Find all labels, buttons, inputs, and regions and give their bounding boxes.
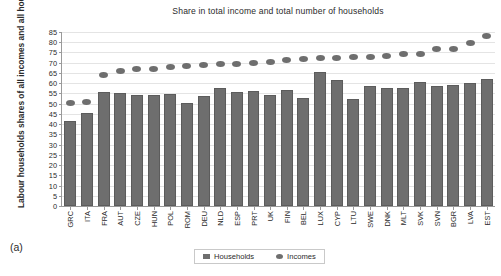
data-point-marker (132, 66, 141, 72)
y-axis-title: Labour households shares of all incomes … (8, 28, 34, 208)
x-tick-label: LUX (316, 211, 325, 225)
plot-area: 8580757065605550454035302520151050 GRCIT… (61, 32, 495, 207)
x-tick-label: NLD (216, 211, 225, 226)
panel-label: (a) (10, 241, 23, 253)
data-point-marker (182, 63, 191, 69)
x-tick-label-wrap: FIN (281, 211, 293, 247)
x-tick-mark (120, 206, 121, 210)
bar (331, 80, 343, 206)
bar (114, 93, 126, 206)
x-tick-label-wrap: AUT (114, 211, 126, 247)
bar (214, 88, 226, 206)
x-tick-label: ITA (82, 211, 91, 222)
data-point-marker (349, 54, 358, 60)
bar (431, 86, 443, 206)
category-slot: BEL (295, 32, 312, 206)
bar (347, 99, 359, 206)
x-tick-label-wrap: HUN (148, 211, 160, 247)
bar (81, 113, 93, 206)
x-tick-mark (254, 206, 255, 210)
data-point-marker (216, 61, 225, 67)
bar (181, 103, 193, 206)
x-tick-mark (220, 206, 221, 210)
x-tick-label: HUN (149, 211, 158, 227)
x-tick-label-wrap: DNK (381, 211, 393, 247)
category-slot: ESP (229, 32, 246, 206)
x-tick-label-wrap: GRC (64, 211, 76, 247)
category-slot: CYP (328, 32, 345, 206)
bar (481, 79, 493, 206)
x-tick-label-wrap: SWE (364, 211, 376, 247)
y-tick-label: 75 (49, 48, 57, 57)
category-slot: POL (162, 32, 179, 206)
category-slot: ITA (79, 32, 96, 206)
x-tick-label-wrap: ROM (181, 211, 193, 247)
x-tick-label: DNK (382, 211, 391, 227)
x-tick-label: FIN (282, 211, 291, 223)
x-tick-label-wrap: NLD (214, 211, 226, 247)
category-slot: DNK (378, 32, 395, 206)
data-point-marker (282, 57, 291, 63)
x-tick-label-wrap: SVK (414, 211, 426, 247)
x-tick-mark (87, 206, 88, 210)
x-tick-mark (237, 206, 238, 210)
category-slot: ROM (179, 32, 196, 206)
x-tick-mark (353, 206, 354, 210)
legend-item-incomes: Incomes (276, 252, 316, 261)
data-point-marker (82, 99, 91, 105)
x-tick-label: EST (482, 211, 491, 225)
x-tick-mark (204, 206, 205, 210)
y-tick-label: 40 (49, 120, 57, 129)
x-tick-mark (187, 206, 188, 210)
x-tick-label-wrap: BEL (297, 211, 309, 247)
data-point-marker (416, 51, 425, 57)
category-slot: BGR (445, 32, 462, 206)
data-point-marker (449, 46, 458, 52)
category-slot: NLD (212, 32, 229, 206)
y-tick-label: 50 (49, 99, 57, 108)
y-tick-label: 70 (49, 58, 57, 67)
bar (98, 92, 110, 206)
x-tick-mark (320, 206, 321, 210)
x-tick-label: UK (266, 211, 275, 221)
category-slot: LTU (345, 32, 362, 206)
bar (148, 95, 160, 206)
chart-figure: Share in total income and total number o… (0, 0, 501, 276)
bar (231, 92, 243, 206)
x-tick-label: ESP (232, 211, 241, 226)
bar (264, 95, 276, 206)
bar (314, 72, 326, 206)
category-slot: UK (262, 32, 279, 206)
y-tick-mark (59, 206, 62, 207)
x-tick-mark (487, 206, 488, 210)
y-tick-label: 85 (49, 28, 57, 37)
data-point-marker (232, 61, 241, 67)
data-point-marker (299, 56, 308, 62)
bar (397, 88, 409, 206)
x-tick-mark (154, 206, 155, 210)
data-point-marker (432, 46, 441, 52)
x-tick-mark (70, 206, 71, 210)
x-tick-label: BGR (449, 211, 458, 227)
x-tick-label-wrap: PRT (248, 211, 260, 247)
x-tick-label: CYP (332, 211, 341, 226)
data-point-marker (249, 60, 258, 66)
bar (464, 83, 476, 206)
x-tick-label-wrap: POL (164, 211, 176, 247)
bar (198, 96, 210, 206)
x-tick-mark (453, 206, 454, 210)
data-point-marker (466, 40, 475, 46)
chart-title: Share in total income and total number o… (60, 6, 496, 16)
x-tick-mark (104, 206, 105, 210)
category-slot: SWE (362, 32, 379, 206)
x-tick-mark (287, 206, 288, 210)
data-point-marker (382, 53, 391, 59)
x-tick-mark (303, 206, 304, 210)
category-slot: LUX (312, 32, 329, 206)
x-tick-label-wrap: FRA (98, 211, 110, 247)
x-tick-label: MLT (399, 211, 408, 225)
category-slot: EST (478, 32, 495, 206)
category-slot: HUN (145, 32, 162, 206)
bar (164, 94, 176, 206)
data-point-marker (316, 55, 325, 61)
